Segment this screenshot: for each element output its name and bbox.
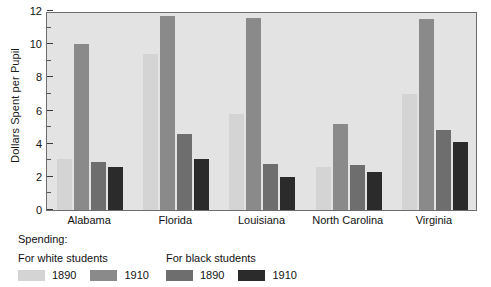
bar [263,164,278,210]
x-axis-label: Louisiana [238,214,285,226]
y-axis-tick-label: 0 [16,204,42,216]
plot-area [46,12,477,211]
y-axis-tick-label: 4 [16,138,42,150]
legend-title: Spending: [18,233,478,245]
y-axis-tick-label: 2 [16,171,42,183]
bar [367,172,382,210]
legend-swatch-black-1890 [166,270,193,281]
bar [194,159,209,210]
x-axis-label: Alabama [67,214,110,226]
legend-swatch-black-1910 [238,270,265,281]
bar-group [219,13,305,210]
legend-label-white-1890: 1890 [52,269,76,281]
bar-chart-figure: Dollars Spent per Pupil 024681012 Alabam… [0,0,491,287]
x-axis-label: Florida [158,214,192,226]
y-axis-tick-label: 6 [16,105,42,117]
bar [177,134,192,210]
bar [74,44,89,210]
legend-label-white-1910: 1910 [124,269,148,281]
bar [143,54,158,210]
legend-heading-black: For black students [166,252,311,264]
bar-group [392,13,478,210]
bar [350,165,365,210]
bar [436,130,451,210]
bar [91,162,106,210]
bar [402,94,417,210]
bar [57,159,72,210]
legend-heading-white: For white students [18,252,166,264]
x-axis-label: North Carolina [312,214,383,226]
legend: Spending: For white students 1890 1910 F… [18,233,478,281]
bar [160,16,175,210]
legend-label-black-1890: 1890 [200,269,224,281]
bar [316,167,331,210]
bar [333,124,348,210]
bar [453,142,468,210]
x-axis-label: Virginia [416,214,453,226]
legend-swatch-white-1890 [18,270,45,281]
y-axis-tick-label: 12 [16,5,42,17]
legend-label-black-1910: 1910 [272,269,296,281]
bar-group [133,13,219,210]
y-axis-tick-label: 8 [16,71,42,83]
legend-group-white-students: For white students 1890 1910 [18,252,166,281]
bar-group [306,13,392,210]
bar [280,177,295,210]
bar [419,19,434,210]
y-axis-tick-label: 10 [16,38,42,50]
y-axis-tick [47,10,53,11]
bar [108,167,123,210]
bar-group [47,13,133,210]
legend-group-black-students: For black students 1890 1910 [166,252,311,281]
bar [229,114,244,210]
bar [246,18,261,210]
legend-swatch-white-1910 [90,270,117,281]
